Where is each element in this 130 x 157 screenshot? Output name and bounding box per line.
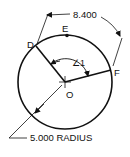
arc-length-label: 8.400	[73, 9, 97, 20]
arc-length-dimension-left	[47, 14, 70, 15]
geometry-diagram: 8.400 E D F O ∠1 5.000 RADIUS	[0, 0, 130, 157]
radius-od	[36, 46, 65, 82]
angle-label: ∠1	[72, 58, 85, 68]
point-label-d: D	[27, 39, 34, 50]
radius-label: 5.000 RADIUS	[30, 132, 92, 143]
arc-length-dimension-right	[101, 17, 120, 36]
radius-leader	[9, 85, 62, 138]
point-label-o: O	[66, 89, 73, 100]
point-e-dot	[65, 34, 69, 38]
radius-arrow	[35, 104, 44, 113]
point-label-e: E	[62, 23, 68, 34]
point-label-f: F	[114, 67, 120, 78]
extension-line-f	[113, 38, 122, 66]
